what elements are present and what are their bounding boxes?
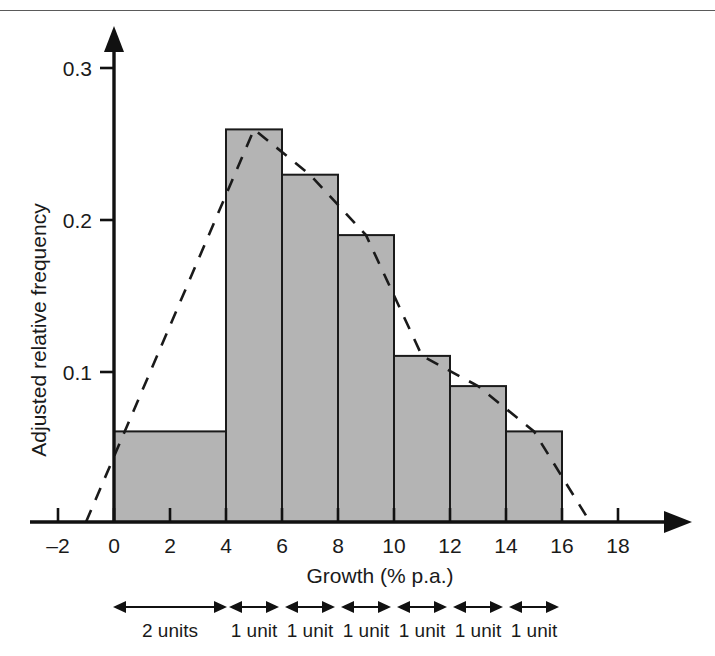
arrowhead-left	[397, 601, 410, 613]
bracket-label: 1 unit	[343, 620, 390, 641]
y-axis-title: Adjusted relative frequency	[27, 203, 50, 457]
y-axis: 0.3 0.2 0.1 Adjusted relative frequency	[27, 26, 124, 522]
x-tick-label-6: 6	[276, 534, 288, 557]
arrowhead-right	[322, 601, 335, 613]
x-tick-label-14: 14	[494, 534, 518, 557]
bar-14-16	[506, 431, 562, 522]
bar-4-6	[226, 129, 282, 522]
bars-group	[114, 129, 562, 522]
y-axis-arrowhead	[104, 26, 124, 52]
arrowhead-right	[378, 601, 391, 613]
x-tick-label-18: 18	[606, 534, 629, 557]
arrowhead-left	[229, 601, 242, 613]
x-tick-label-10: 10	[382, 534, 405, 557]
bracket-1-unit-6-8: 1 unit	[285, 601, 335, 641]
arrowhead-left	[113, 601, 126, 613]
arrowhead-right	[546, 601, 559, 613]
arrowhead-right	[490, 601, 503, 613]
bar-10-12	[394, 356, 450, 522]
y-tick-label-0.2: 0.2	[63, 209, 92, 232]
bracket-label: 1 unit	[399, 620, 446, 641]
chart-canvas: 0.3 0.2 0.1 Adjusted relative frequency …	[0, 0, 715, 656]
arrowhead-right	[266, 601, 279, 613]
bracket-1-unit-12-14: 1 unit	[453, 601, 503, 641]
page-top-rule	[0, 10, 715, 11]
bracket-label: 1 unit	[455, 620, 502, 641]
x-tick-label-2: 2	[164, 534, 176, 557]
y-tick-label-0.3: 0.3	[63, 57, 92, 80]
bracket-label: 1 unit	[231, 620, 278, 641]
bracket-1-unit-14-16: 1 unit	[509, 601, 559, 641]
width-brackets-group: 2 units 1 unit 1 unit 1 unit	[113, 601, 559, 641]
x-tick-label--2: –2	[46, 534, 69, 557]
arrowhead-right	[434, 601, 447, 613]
x-tick-label-8: 8	[332, 534, 344, 557]
arrowhead-right	[214, 601, 227, 613]
x-axis-arrowhead	[664, 511, 692, 533]
x-tick-label-12: 12	[438, 534, 461, 557]
arrowhead-left	[453, 601, 466, 613]
bracket-2-units: 2 units	[113, 601, 227, 641]
bracket-1-unit-10-12: 1 unit	[397, 601, 447, 641]
bar-6-8	[282, 175, 338, 522]
bracket-1-unit-4-6: 1 unit	[229, 601, 279, 641]
arrowhead-left	[341, 601, 354, 613]
arrowhead-left	[285, 601, 298, 613]
x-axis-title: Growth (% p.a.)	[306, 564, 453, 587]
arrowhead-left	[509, 601, 522, 613]
bar-12-14	[450, 386, 506, 522]
x-tick-label-4: 4	[220, 534, 232, 557]
bracket-label: 2 units	[142, 620, 198, 641]
x-tick-label-0: 0	[108, 534, 120, 557]
bracket-1-unit-8-10: 1 unit	[341, 601, 391, 641]
histogram-figure: 0.3 0.2 0.1 Adjusted relative frequency …	[0, 0, 715, 656]
x-tick-label-16: 16	[550, 534, 573, 557]
bracket-label: 1 unit	[511, 620, 558, 641]
bracket-label: 1 unit	[287, 620, 334, 641]
y-tick-label-0.1: 0.1	[63, 361, 92, 384]
